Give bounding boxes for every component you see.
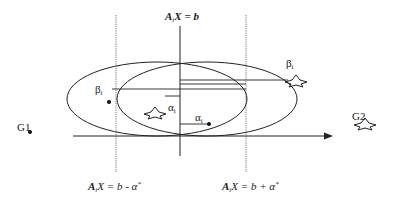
top-equation-label: AiX = b xyxy=(165,10,199,26)
superscript: * xyxy=(137,180,141,188)
right-eq-rest: X = b + α xyxy=(231,180,275,192)
right-equation-label: AiX = b + α* xyxy=(222,178,279,196)
beta-left-label: βi xyxy=(95,83,103,99)
alpha-star-label: αi xyxy=(168,101,176,117)
axis-arrowhead-icon xyxy=(324,133,333,140)
left-ellipse xyxy=(67,62,247,136)
top-eq-rest: X = b xyxy=(174,10,199,22)
beta-left-point xyxy=(107,100,111,104)
superscript: * xyxy=(275,180,279,188)
subscript: i xyxy=(174,107,176,115)
beta-right-label: βi xyxy=(286,57,294,73)
g2-label: G2 xyxy=(352,110,365,122)
alpha-dot-label: αi xyxy=(195,111,203,127)
svm-margin-diagram xyxy=(0,0,395,198)
alpha-star-icon xyxy=(144,107,166,119)
alpha-dot-point xyxy=(207,122,211,126)
beta-right-star-icon xyxy=(285,75,307,87)
subscript: i xyxy=(101,89,103,97)
g1-label: G1 xyxy=(17,121,30,133)
left-eq-rest: X = b - α xyxy=(97,180,137,192)
right-ellipse xyxy=(117,62,297,136)
subscript: i xyxy=(292,63,294,71)
subscript: i xyxy=(201,117,203,125)
left-equation-label: AiX = b - α* xyxy=(88,178,141,196)
